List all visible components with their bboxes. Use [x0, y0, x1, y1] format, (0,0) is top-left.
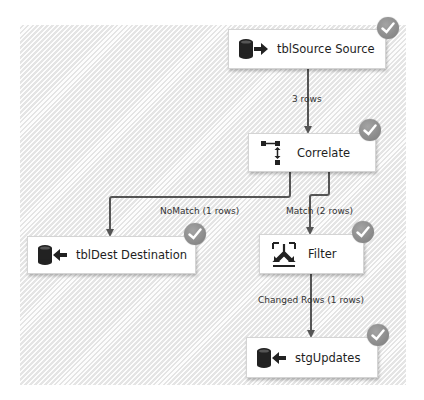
node-label: tblSource Source [277, 42, 375, 56]
node-tblsource-source[interactable]: tblSource Source [228, 29, 386, 69]
path-label-nomatch[interactable]: NoMatch (1 rows) [160, 206, 239, 216]
success-check-icon [377, 17, 399, 39]
path-label-changed-rows[interactable]: Changed Rows (1 rows) [258, 295, 364, 305]
success-check-icon [352, 221, 374, 243]
node-stgupdates[interactable]: stgUpdates [246, 337, 378, 378]
filter-icon [268, 240, 300, 268]
node-label: Correlate [297, 146, 350, 160]
destination-database-icon [255, 344, 287, 372]
node-label: Filter [308, 247, 336, 261]
node-tbldest-destination[interactable]: tblDest Destination [27, 236, 196, 274]
source-database-icon [237, 35, 269, 63]
node-label: tblDest Destination [76, 248, 187, 262]
correlate-icon [257, 139, 289, 167]
design-surface[interactable] [20, 25, 406, 385]
success-check-icon [184, 223, 206, 245]
destination-database-icon [36, 241, 68, 269]
path-label-match[interactable]: Match (2 rows) [286, 206, 353, 216]
node-label: stgUpdates [295, 351, 360, 365]
node-correlate[interactable]: Correlate [248, 133, 376, 172]
success-check-icon [367, 324, 389, 346]
data-flow-designer: 3 rows NoMatch (1 rows) Match (2 rows) C… [0, 0, 424, 400]
node-filter[interactable]: Filter [259, 234, 364, 274]
success-check-icon [359, 119, 381, 141]
path-label-source-to-correlate[interactable]: 3 rows [292, 94, 322, 104]
